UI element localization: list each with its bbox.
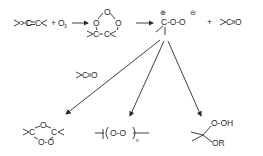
positive-charge-icon: ⊕ bbox=[160, 9, 166, 16]
svg-text:O-OH: O-OH bbox=[211, 118, 233, 128]
svg-text:O: O bbox=[235, 17, 242, 27]
svg-text:C: C bbox=[29, 127, 35, 137]
secondary-ozonide: C O C O-O bbox=[23, 120, 64, 147]
svg-text:O: O bbox=[93, 18, 100, 28]
negative-charge-icon: ⊖ bbox=[190, 9, 196, 16]
primary-ozonide: O O O C C bbox=[87, 7, 122, 39]
ozone: O 3 bbox=[58, 18, 67, 29]
svg-text:O-O: O-O bbox=[110, 128, 126, 138]
svg-text:C: C bbox=[82, 70, 88, 80]
svg-text:O: O bbox=[115, 18, 122, 28]
ozonolysis-diagram: >C C C + O 3 O O O C C ⊕ C -O- O ⊖ bbox=[0, 0, 263, 156]
arrow-to-hydroperoxide bbox=[168, 41, 201, 116]
plus-sign: + bbox=[51, 18, 56, 28]
svg-text:C: C bbox=[26, 18, 32, 28]
svg-text:3: 3 bbox=[64, 23, 67, 29]
polymeric-peroxide: O-O n bbox=[95, 127, 149, 143]
carbonyl-reagent: C O bbox=[76, 70, 98, 80]
carbonyl-oxide: ⊕ C -O- O ⊖ bbox=[156, 9, 196, 35]
arrow-to-secondary-ozonide bbox=[66, 40, 160, 114]
svg-text:O-O: O-O bbox=[38, 137, 54, 147]
svg-text:n: n bbox=[136, 137, 139, 143]
svg-text:O: O bbox=[40, 120, 47, 130]
alkoxy-hydroperoxide: O-OH OR bbox=[191, 118, 233, 148]
svg-text:C: C bbox=[93, 29, 99, 39]
plus-sign-2: + bbox=[207, 17, 212, 27]
svg-text:C: C bbox=[226, 17, 232, 27]
svg-text:C: C bbox=[51, 127, 57, 137]
svg-text:OR: OR bbox=[212, 138, 225, 148]
svg-text:O: O bbox=[91, 70, 98, 80]
arrow-to-polymeric-peroxide bbox=[130, 41, 164, 116]
svg-text:O: O bbox=[104, 7, 111, 17]
svg-text:O: O bbox=[179, 17, 186, 27]
alkene-reactant: >C C C bbox=[14, 18, 47, 28]
svg-text:-O-: -O- bbox=[167, 17, 179, 27]
carbonyl-byproduct: C O bbox=[220, 17, 242, 27]
